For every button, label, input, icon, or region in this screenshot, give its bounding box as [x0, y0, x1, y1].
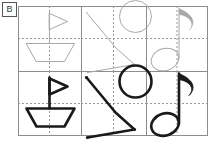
cell-1-0-sailboat	[18, 71, 81, 136]
sailboat-hull	[27, 44, 75, 62]
zigzag-endpoint-dot-0	[85, 76, 88, 79]
cell-0-1-zigzag-circle	[81, 1, 152, 74]
shape-sailboat-bold	[27, 78, 75, 127]
shape-zigzag-circle-faint	[86, 1, 152, 74]
cell-1-1-zigzag-circle	[81, 66, 152, 140]
sailboat-sail	[50, 14, 68, 30]
cell-0-0-sailboat	[18, 6, 81, 71]
note-flag	[179, 74, 193, 96]
sailboat-sail	[50, 79, 68, 95]
shape-eighth-note-bold	[148, 74, 193, 140]
cell-1-2-eighth-note	[146, 71, 208, 139]
shape-eighth-note-faint	[148, 9, 193, 75]
sailboat-hull	[27, 109, 75, 127]
cell-0-2-eighth-note	[146, 6, 208, 74]
zigzag-endpoint-dot-0	[86, 12, 87, 13]
zigzag-polyline	[87, 13, 135, 73]
zigzag-polyline	[87, 78, 135, 138]
note-flag	[179, 9, 193, 31]
shape-sailboat-faint	[27, 13, 75, 62]
zigzag-endpoint-dot-2	[87, 72, 88, 73]
shape-matrix-canvas	[0, 0, 213, 143]
zigzag-endpoint-dot-1	[133, 128, 136, 131]
shape-zigzag-circle-bold	[85, 66, 152, 140]
shape-matrix-figure	[0, 0, 213, 143]
zigzag-endpoint-dot-2	[86, 136, 89, 139]
panel-label: B	[2, 2, 17, 17]
